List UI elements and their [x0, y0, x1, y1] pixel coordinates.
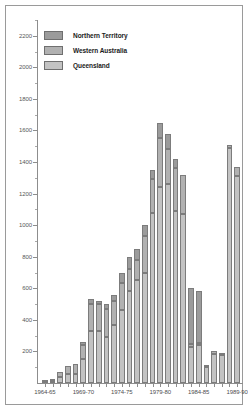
bar-segment-queensland	[234, 176, 240, 383]
bar-segment-queensland	[180, 214, 186, 383]
bar-segment-western-australia	[73, 364, 79, 373]
x-axis-tick	[191, 384, 192, 387]
y-axis-tick-major	[33, 162, 37, 163]
x-axis-tick	[45, 384, 46, 387]
y-axis-label: 1800	[19, 96, 32, 102]
bar-segment-western-australia	[111, 301, 117, 325]
bar-1982-83	[180, 175, 186, 383]
bar-1985-86	[204, 366, 210, 383]
bar-segment-northern-territory	[80, 342, 86, 345]
bar-segment-northern-territory	[104, 304, 110, 309]
y-axis-tick-minor	[35, 178, 37, 179]
bar-segment-queensland	[73, 374, 79, 383]
y-axis-label: 1400	[19, 159, 32, 165]
bar-segment-queensland	[211, 354, 217, 383]
bar-segment-northern-territory	[119, 273, 125, 282]
y-axis-label: 600	[22, 285, 32, 291]
legend-swatch-northern-territory	[44, 31, 63, 40]
x-axis-label: 1964-65	[34, 389, 55, 395]
y-axis-tick-major	[33, 225, 37, 226]
x-axis-label: 1979-80	[150, 389, 171, 395]
x-axis-tick	[222, 384, 223, 387]
bar-segment-queensland	[204, 367, 210, 383]
x-axis-tick	[229, 384, 230, 387]
bar-segment-queensland	[188, 347, 194, 383]
bar-segment-western-australia	[234, 167, 240, 176]
y-axis-tick-minor	[35, 83, 37, 84]
x-axis-tick	[199, 384, 200, 387]
bar-segment-queensland	[65, 374, 71, 383]
bar-1972-73	[104, 304, 110, 383]
y-axis-tick-major	[33, 351, 37, 352]
bar-segment-northern-territory	[188, 288, 194, 343]
bar-segment-western-australia	[80, 345, 86, 359]
bar-segment-queensland	[80, 359, 86, 383]
bar-segment-northern-territory	[196, 291, 202, 343]
bar-segment-northern-territory	[165, 134, 171, 150]
bar-segment-queensland	[173, 211, 179, 383]
y-axis-tick-major	[33, 194, 37, 195]
bar-segment-western-australia	[42, 380, 48, 382]
y-axis-tick-minor	[35, 241, 37, 242]
bar-segment-western-australia	[57, 372, 63, 377]
x-axis-tick	[129, 384, 130, 387]
x-axis-tick	[60, 384, 61, 387]
plot-area: 2004006008001000120014001600180020002200…	[37, 20, 243, 384]
x-axis-label: 1969-70	[73, 389, 94, 395]
bar-1965-66	[50, 380, 56, 383]
bar-segment-western-australia	[119, 283, 125, 311]
legend-label-queensland: Queensland	[73, 62, 110, 69]
bar-segment-queensland	[165, 184, 171, 383]
x-axis-tick	[114, 384, 115, 387]
x-axis-tick	[183, 384, 184, 387]
bar-segment-western-australia	[165, 149, 171, 184]
bar-1974-75	[119, 273, 125, 383]
bar-segment-queensland	[104, 337, 110, 383]
bar-segment-western-australia	[157, 138, 163, 187]
bar-1987-88	[219, 353, 225, 383]
y-axis-tick-major	[33, 130, 37, 131]
bar-1986-87	[211, 351, 217, 383]
bar-segment-western-australia	[142, 236, 148, 272]
bar-segment-western-australia	[180, 175, 186, 214]
bar-segment-western-australia	[88, 304, 94, 331]
bar-segment-northern-territory	[150, 170, 156, 179]
x-axis-tick	[145, 384, 146, 387]
bar-1964-65	[42, 381, 48, 383]
bar-1969-70	[80, 342, 86, 383]
y-axis-label: 400	[22, 317, 32, 323]
y-axis-label: 2200	[19, 33, 32, 39]
y-axis-tick-major	[33, 257, 37, 258]
bar-segment-queensland	[157, 187, 163, 383]
y-axis-label: 1600	[19, 127, 32, 133]
bar-segment-western-australia	[104, 309, 110, 337]
bar-segment-western-australia	[96, 304, 102, 331]
y-axis-tick-major	[33, 288, 37, 289]
bar-1984-85	[196, 291, 202, 383]
bar-1977-78	[142, 225, 148, 383]
y-axis-tick-major	[33, 320, 37, 321]
legend-item-western-australia: Western Australia	[44, 43, 164, 57]
x-axis-tick	[160, 384, 161, 387]
bar-1988-89	[227, 145, 233, 383]
y-axis-tick-minor	[35, 367, 37, 368]
x-axis-tick	[106, 384, 107, 387]
y-axis-tick-major	[33, 99, 37, 100]
bar-1967-68	[65, 366, 71, 383]
legend-swatch-western-australia	[44, 46, 63, 55]
y-axis-tick-minor	[35, 52, 37, 53]
x-axis-tick	[122, 384, 123, 387]
bar-segment-queensland	[196, 345, 202, 383]
bar-1981-82	[173, 159, 179, 383]
figure-frame: 2004006008001000120014001600180020002200…	[5, 5, 243, 405]
bar-segment-northern-territory	[111, 295, 117, 301]
y-axis-label: 200	[22, 348, 32, 354]
bar-segment-northern-territory	[157, 123, 163, 139]
y-axis-tick-minor	[35, 304, 37, 305]
legend-label-northern-territory: Northern Territory	[73, 32, 128, 39]
y-axis-tick-minor	[35, 146, 37, 147]
x-axis-tick	[83, 384, 84, 387]
bar-1973-74	[111, 295, 117, 383]
bar-segment-queensland	[150, 213, 156, 383]
x-axis-tick	[206, 384, 207, 387]
